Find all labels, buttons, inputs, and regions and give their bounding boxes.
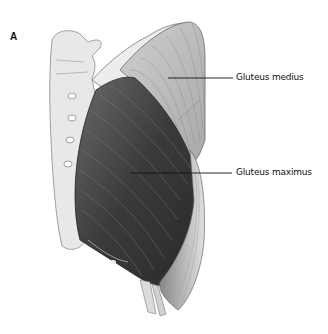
label-gluteus-maximus: Gluteus maximus xyxy=(236,167,312,177)
label-gluteus-medius: Gluteus medius xyxy=(236,72,304,82)
bone-highlight xyxy=(110,260,116,264)
anatomy-figure: A Gluteus medius Gluteus maximus xyxy=(0,0,328,334)
panel-letter: A xyxy=(10,31,17,42)
